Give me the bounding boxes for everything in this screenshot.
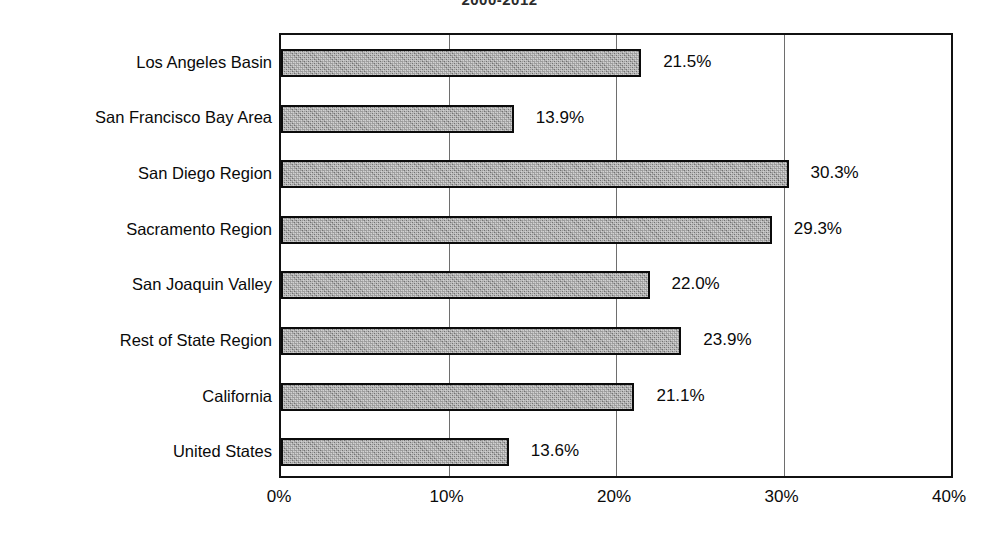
bar-row: 13.9% <box>281 91 951 147</box>
category-label-california: California <box>2 388 272 405</box>
category-axis-labels: Los Angeles Basin San Francisco Bay Area… <box>0 33 272 478</box>
bar-value-california: 21.1% <box>656 382 704 410</box>
x-tick-0: 0% <box>267 487 292 507</box>
bar-los-angeles-basin <box>281 49 641 77</box>
category-label-sacramento-region: Sacramento Region <box>2 221 272 238</box>
bar-california <box>281 383 634 411</box>
bar-value-rest-of-state-region: 23.9% <box>703 326 751 354</box>
category-label-san-joaquin-valley: San Joaquin Valley <box>2 276 272 293</box>
bar-row: 23.9% <box>281 313 951 369</box>
bar-value-united-states: 13.6% <box>531 437 579 465</box>
bar-row: 22.0% <box>281 257 951 313</box>
bar-san-joaquin-valley <box>281 271 650 299</box>
bar-san-francisco-bay-area <box>281 105 514 133</box>
bar-value-san-francisco-bay-area: 13.9% <box>536 104 584 132</box>
category-label-rest-of-state-region: Rest of State Region <box>2 332 272 349</box>
bar-value-san-diego-region: 30.3% <box>811 159 859 187</box>
bar-sacramento-region <box>281 216 772 244</box>
x-tick-40: 40% <box>932 487 966 507</box>
category-label-san-francisco-bay-area: San Francisco Bay Area <box>2 109 272 126</box>
bar-row: 30.3% <box>281 146 951 202</box>
bar-row: 21.5% <box>281 35 951 91</box>
bar-united-states <box>281 438 509 466</box>
category-label-san-diego-region: San Diego Region <box>2 165 272 182</box>
bar-san-diego-region <box>281 160 789 188</box>
bar-row: 29.3% <box>281 202 951 258</box>
category-label-united-states: United States <box>2 443 272 460</box>
x-axis-labels: 0% 10% 20% 30% 40% <box>279 487 953 517</box>
category-label-los-angeles-basin: Los Angeles Basin <box>2 54 272 71</box>
chart-title: 2000-2012 <box>0 0 999 8</box>
bar-row: 21.1% <box>281 369 951 425</box>
bar-row: 13.6% <box>281 424 951 480</box>
plot-area: 21.5% 13.9% 30.3% 29.3% 22.0% 23.9% 21.1… <box>279 33 953 478</box>
x-tick-10: 10% <box>429 487 463 507</box>
x-tick-30: 30% <box>764 487 798 507</box>
x-tick-20: 20% <box>597 487 631 507</box>
bar-value-sacramento-region: 29.3% <box>794 215 842 243</box>
bar-rest-of-state-region <box>281 327 681 355</box>
bar-value-los-angeles-basin: 21.5% <box>663 48 711 76</box>
bar-value-san-joaquin-valley: 22.0% <box>672 270 720 298</box>
